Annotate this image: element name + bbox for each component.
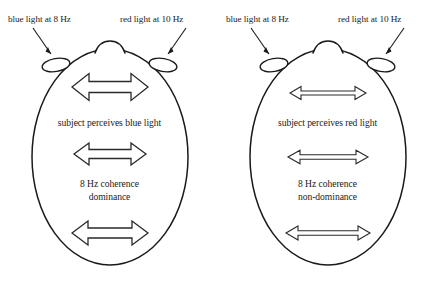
percept-text-right: subject perceives red light <box>218 117 437 130</box>
head-diagram-right <box>218 0 437 287</box>
label-blue-light-right: blue light at 8 Hz <box>226 14 289 25</box>
label-red-light-left: red light at 10 Hz <box>120 14 183 25</box>
coherence-line-2-right: non-dominance <box>218 191 437 204</box>
head-diagram-left <box>0 0 219 287</box>
nose-bump <box>95 41 125 53</box>
arrow-bottom <box>72 221 148 245</box>
label-red-light-right: red light at 10 Hz <box>338 14 401 25</box>
figure-canvas: blue light at 8 Hz red light at 10 Hz su… <box>0 0 437 287</box>
arrow-top <box>290 87 366 100</box>
coherence-line-1-right: 8 Hz coherence <box>218 178 437 191</box>
percept-text-left: subject perceives blue light <box>0 117 219 130</box>
arrow-group-left <box>72 74 148 246</box>
arrow-bottom <box>286 226 370 240</box>
pointer-blue-left <box>33 28 51 54</box>
arrow-middle <box>74 143 146 165</box>
pointer-blue-right <box>251 28 269 54</box>
ear-right <box>148 56 178 74</box>
panel-non-dominance: blue light at 8 Hz red light at 10 Hz su… <box>218 0 437 287</box>
pointer-red-right <box>386 28 404 54</box>
coherence-line-1-left: 8 Hz coherence <box>0 178 219 191</box>
arrow-group-right <box>286 87 370 241</box>
coherence-line-2-left: dominance <box>0 191 219 204</box>
ear-left <box>41 56 71 74</box>
coherence-text-right: 8 Hz coherence non-dominance <box>218 178 437 203</box>
pointer-red-left <box>168 28 186 54</box>
ear-right <box>366 56 396 74</box>
arrow-middle <box>288 150 368 164</box>
nose-bump <box>313 41 343 53</box>
ear-left <box>259 56 289 74</box>
label-blue-light-left: blue light at 8 Hz <box>8 14 71 25</box>
arrow-top <box>72 74 148 101</box>
coherence-text-left: 8 Hz coherence dominance <box>0 178 219 203</box>
panel-dominance: blue light at 8 Hz red light at 10 Hz su… <box>0 0 219 287</box>
